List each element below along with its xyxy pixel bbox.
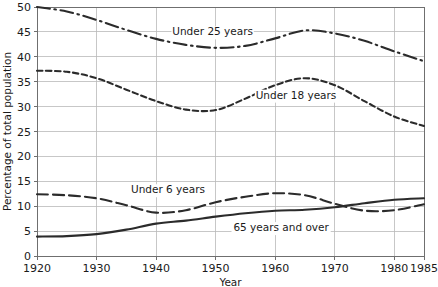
y-axis-tick-label: 5 <box>24 225 31 238</box>
y-axis-tick-label: 30 <box>17 101 31 114</box>
y-axis-tick-label: 35 <box>17 76 31 89</box>
series-label-under-25-years: Under 25 years <box>172 25 253 37</box>
x-axis-tick-label: 1970 <box>321 262 349 275</box>
tick-marks-group <box>34 7 425 260</box>
series-group <box>37 7 424 237</box>
y-axis-tick-label: 40 <box>17 51 31 64</box>
y-axis-tick-label: 25 <box>17 126 31 139</box>
x-axis-tick-label: 1930 <box>83 262 111 275</box>
y-axis-tick-label: 50 <box>17 1 31 14</box>
series-label-under-18-years: Under 18 years <box>256 89 337 101</box>
y-axis-tick-label: 10 <box>17 200 31 213</box>
x-axis-tick-label: 1985 <box>410 262 438 275</box>
y-axis-tick-label: 20 <box>17 150 31 163</box>
x-axis-tick-label: 1980 <box>380 262 408 275</box>
series-label-65-years-and-over: 65 years and over <box>233 221 329 233</box>
gridlines-group <box>37 7 424 256</box>
x-axis-tick-label: 1920 <box>23 262 51 275</box>
x-axis-tick-label: 1940 <box>142 262 170 275</box>
population-percentage-line-chart: Under 25 yearsUnder 18 yearsUnder 6 year… <box>0 0 438 287</box>
series-line-under-18-years <box>37 71 424 126</box>
x-axis-tick-label: 1950 <box>202 262 230 275</box>
x-axis-tick-label: 1960 <box>261 262 289 275</box>
x-axis-title: Year <box>218 276 242 287</box>
tick-labels-group: 0510152025303540455019201930194019501960… <box>17 1 438 275</box>
y-axis-tick-label: 45 <box>17 26 31 39</box>
y-axis-title: Percentage of total population <box>1 52 13 211</box>
chart-container: Under 25 yearsUnder 18 yearsUnder 6 year… <box>0 0 438 287</box>
series-label-under-6-years: Under 6 years <box>131 183 205 195</box>
y-axis-tick-label: 15 <box>17 175 31 188</box>
